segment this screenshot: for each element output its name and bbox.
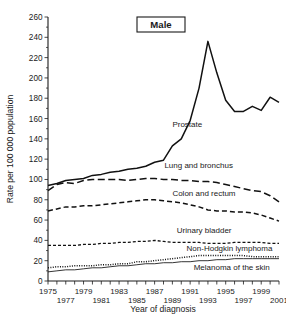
y-tick-label: 240 xyxy=(29,33,43,42)
series-label-prostate: Prostate xyxy=(172,120,202,129)
y-axis-tick-labels: 020406080100120140160180200220240260 xyxy=(29,13,43,286)
x-tick-label: 1979 xyxy=(75,287,93,296)
y-tick-label: 140 xyxy=(29,135,43,144)
series-line-lung-and-bronchus xyxy=(48,178,279,201)
y-tick-label: 100 xyxy=(29,175,43,184)
series-label-non-hodgkin-lymphoma: Non-Hodgkin lymphoma xyxy=(187,244,273,253)
cancer-incidence-chart: 020406080100120140160180200220240260 197… xyxy=(0,0,286,332)
x-tick-label: 1987 xyxy=(146,287,164,296)
y-tick-label: 20 xyxy=(33,257,43,266)
y-tick-label: 60 xyxy=(33,216,43,225)
y-tick-label: 120 xyxy=(29,155,43,164)
y-tick-label: 160 xyxy=(29,115,43,124)
x-axis-title: Year of diagnosis xyxy=(130,304,196,314)
panel-title-text: Male xyxy=(150,19,171,30)
series-label-urinary-bladder: Urinary bladder xyxy=(177,226,232,235)
chart-svg: 020406080100120140160180200220240260 197… xyxy=(0,0,286,332)
series-lines xyxy=(48,41,279,271)
x-axis-tick-labels: 1975197919831987199119951999197719811985… xyxy=(39,287,286,305)
y-axis-title: Rate per 100 000 population xyxy=(5,95,15,204)
series-line-colon-and-rectum xyxy=(48,200,279,221)
y-tick-label: 200 xyxy=(29,74,43,83)
x-tick-label: 1995 xyxy=(217,287,235,296)
y-tick-label: 260 xyxy=(29,13,43,22)
y-tick-label: 40 xyxy=(33,236,43,245)
x-tick-label: 2001 xyxy=(270,296,286,305)
series-label-lung-and-bronchus: Lung and bronchus xyxy=(164,161,233,170)
panel-title-box: Male xyxy=(137,17,185,32)
x-tick-label: 1981 xyxy=(92,296,110,305)
x-tick-label: 1975 xyxy=(39,287,57,296)
y-tick-label: 220 xyxy=(29,54,43,63)
x-tick-label: 1991 xyxy=(181,287,199,296)
y-axis-group: 020406080100120140160180200220240260 xyxy=(29,13,48,286)
series-annotations: ProstateLung and bronchusColon and rectu… xyxy=(164,120,273,272)
x-axis-group: 1975197919831987199119951999197719811985… xyxy=(39,281,286,305)
x-tick-label: 1999 xyxy=(252,287,270,296)
x-tick-label: 1977 xyxy=(57,296,75,305)
y-tick-label: 80 xyxy=(33,196,43,205)
y-tick-label: 0 xyxy=(38,277,43,286)
x-tick-label: 1983 xyxy=(110,287,128,296)
y-tick-label: 180 xyxy=(29,94,43,103)
series-label-melanoma-of-the-skin: Melanoma of the skin xyxy=(194,263,270,272)
series-label-colon-and-rectum: Colon and rectum xyxy=(172,189,235,198)
x-tick-label: 1997 xyxy=(235,296,253,305)
x-tick-label: 1993 xyxy=(199,296,217,305)
